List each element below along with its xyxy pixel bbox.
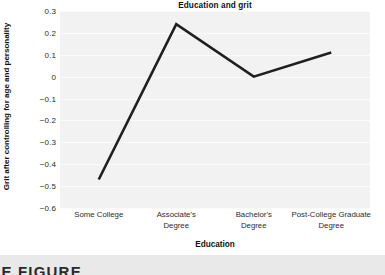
y-tick-label: −0.4	[10, 160, 56, 169]
y-tick-label: 0.3	[10, 7, 56, 16]
y-tick-label: −0.2	[10, 116, 56, 125]
y-tick-label: 0.1	[10, 50, 56, 59]
series-polyline	[99, 24, 332, 179]
x-axis-tick-labels: Some CollegeAssociate'sDegreeBachelor'sD…	[60, 210, 370, 244]
y-tick-label: −0.1	[10, 94, 56, 103]
y-tick-label: −0.5	[10, 182, 56, 191]
y-tick-label: 0.2	[10, 28, 56, 37]
y-tick-label: −0.3	[10, 138, 56, 147]
chart-figure: Education and grit Grit after controllin…	[0, 0, 385, 255]
page-caption-partial: RIE FIGURE	[0, 263, 82, 275]
y-tick-label: 0	[10, 72, 56, 81]
line-series	[60, 11, 370, 208]
page-bottom-strip: RIE FIGURE	[0, 255, 385, 275]
x-tick-label: Post-College GraduateDegree	[277, 210, 385, 231]
chart-title: Education and grit	[60, 1, 370, 10]
plot-area	[60, 11, 370, 208]
y-axis-tick-labels: 0.30.20.10−0.1−0.2−0.3−0.4−0.5−0.6	[8, 11, 56, 208]
gridline	[60, 208, 370, 209]
x-axis-title: Education	[60, 240, 370, 249]
